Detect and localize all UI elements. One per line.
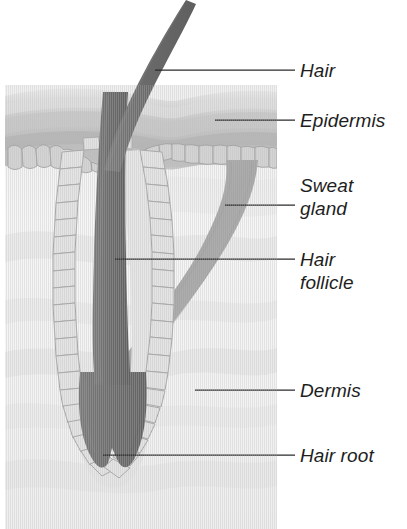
label-hair-root: Hair root [300,445,374,466]
label-hair: Hair [300,60,336,81]
label-epidermis: Epidermis [300,110,386,131]
label-dermis: Dermis [300,380,361,401]
label-sweat-gland-line2: gland [300,198,348,219]
label-sweat-gland-line1: Sweat [300,175,354,196]
diagram-canvas: Hair Epidermis Sweat gland Hair follicle… [0,0,407,529]
label-hair-follicle-line2: follicle [300,272,354,293]
skin-block [5,85,277,529]
diagram-labels: Hair Epidermis Sweat gland Hair follicle… [300,60,386,466]
label-hair-follicle-line1: Hair [300,249,336,270]
skin-cross-section-diagram: Hair Epidermis Sweat gland Hair follicle… [0,0,407,529]
